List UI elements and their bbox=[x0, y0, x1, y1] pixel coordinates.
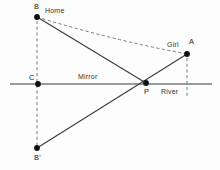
dashed-line-b-to-a bbox=[37, 17, 187, 54]
label-point-b-prime: B' bbox=[34, 154, 41, 162]
point-a-girl bbox=[184, 51, 190, 57]
label-girl: Girl bbox=[167, 41, 179, 48]
point-p bbox=[143, 80, 149, 86]
point-c bbox=[35, 81, 41, 87]
label-point-a: A bbox=[189, 38, 194, 46]
label-river: River bbox=[161, 88, 178, 95]
reflection-diagram-svg bbox=[0, 0, 220, 170]
point-b-home bbox=[34, 14, 40, 20]
solid-line-bprime-to-a bbox=[37, 54, 187, 148]
diagram-canvas: B Home A Girl C Mirror P River B' bbox=[0, 0, 220, 170]
point-b-prime bbox=[34, 145, 40, 151]
label-point-b: B bbox=[34, 3, 39, 11]
label-home: Home bbox=[45, 7, 64, 14]
label-point-p: P bbox=[144, 88, 149, 96]
label-point-c: C bbox=[29, 74, 35, 82]
label-mirror: Mirror bbox=[78, 73, 97, 80]
